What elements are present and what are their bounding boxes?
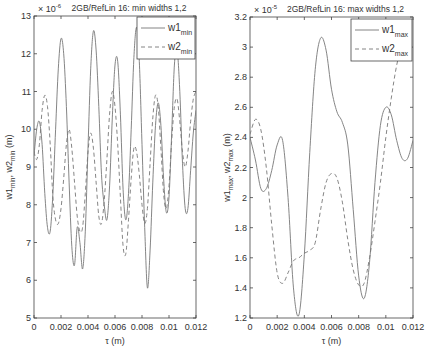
x-tick-label: 0.008 <box>347 322 370 332</box>
x-tick-label: 0.01 <box>160 322 178 332</box>
y-tick-label: 1.4 <box>234 283 247 293</box>
chart-title: 2GB/RefLin 16: max widths 1,2 <box>287 4 404 14</box>
x-tick-label: 0 <box>31 322 36 332</box>
y-tick-label: 1.2 <box>234 313 247 323</box>
x-tick-label: 0.012 <box>402 322 425 332</box>
y-tick-label: 8 <box>26 200 31 210</box>
series-line-w1-min <box>34 27 196 288</box>
y-tick-label: 1.8 <box>234 223 247 233</box>
x-axis-label: τ (m) <box>105 336 125 346</box>
series-line-w1-max <box>250 37 413 316</box>
chart-panel-right: 00.0020.0040.0060.0080.010.0121.21.41.61… <box>222 4 424 346</box>
x-tick-label: 0 <box>247 322 252 332</box>
legend: w1maxw2max <box>351 19 412 61</box>
chart-title: 2GB/RefLin 16: min widths 1,2 <box>72 3 187 13</box>
axes-box <box>250 17 413 318</box>
scale-label: × 10-5 <box>254 4 278 15</box>
x-tick-label: 0.002 <box>266 322 289 332</box>
y-tick-label: 1.6 <box>234 253 247 263</box>
chart-panel-left: 00.0020.0040.0060.0080.010.0125678910111… <box>4 3 207 346</box>
x-tick-label: 0.006 <box>104 322 127 332</box>
y-tick-label: 10 <box>21 124 31 134</box>
x-tick-label: 0.004 <box>77 322 100 332</box>
y-tick-label: 6 <box>26 275 31 285</box>
x-tick-label: 0.01 <box>377 322 395 332</box>
x-tick-label: 0.006 <box>320 322 343 332</box>
y-tick-label: 2 <box>242 193 247 203</box>
y-tick-label: 12 <box>21 49 31 59</box>
x-axis-label: τ (m) <box>322 336 342 346</box>
y-tick-label: 3.2 <box>234 12 247 22</box>
y-tick-label: 2.8 <box>234 72 247 82</box>
y-tick-label: 9 <box>26 162 31 172</box>
x-tick-label: 0.002 <box>50 322 73 332</box>
y-tick-label: 7 <box>26 238 31 248</box>
y-tick-label: 2.2 <box>234 163 247 173</box>
x-tick-label: 0.008 <box>131 322 154 332</box>
x-tick-label: 0.012 <box>185 322 208 332</box>
x-tick-label: 0.004 <box>293 322 316 332</box>
series-line-w2-min <box>34 91 196 256</box>
y-axis-label: w1max, w2max (m) <box>222 133 234 203</box>
scale-label: × 10-6 <box>38 3 62 14</box>
y-tick-label: 11 <box>22 87 31 97</box>
y-axis-label: w1min, w2min (m) <box>4 135 16 201</box>
y-tick-label: 5 <box>26 313 31 323</box>
y-tick-label: 3 <box>242 42 247 52</box>
y-tick-label: 2.4 <box>234 132 247 142</box>
y-tick-label: 13 <box>21 11 31 21</box>
figure: 00.0020.0040.0060.0080.010.0125678910111… <box>0 0 425 351</box>
y-tick-label: 2.6 <box>234 102 247 112</box>
legend: w1minw2min <box>137 17 195 59</box>
